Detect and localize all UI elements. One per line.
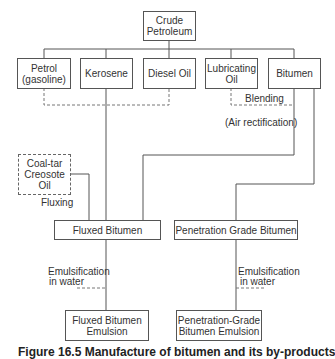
figure-caption: Figure 16.5 Manufacture of bitumen and i… xyxy=(18,345,335,359)
label-air-rectification: (Air rectification) xyxy=(225,117,297,128)
node-kerosene: Kerosene xyxy=(80,58,133,89)
label-fluxing: Fluxing xyxy=(41,197,73,208)
node-penetration-grade-bitumen: Penetration Grade Bitumen xyxy=(174,220,298,240)
node-fluxed-bitumen-emulsion: Fluxed Bitumen Emulsion xyxy=(65,310,149,341)
node-crude-petroleum: Crude Petroleum xyxy=(143,11,196,41)
node-coal-tar-creosote-oil: Coal-tar Creosote Oil xyxy=(18,154,71,195)
node-fluxed-bitumen: Fluxed Bitumen xyxy=(54,220,161,240)
label-emulsification-left-2: in water xyxy=(49,276,84,287)
node-lubricating-oil: Lubricating Oil xyxy=(205,58,258,89)
label-emulsification-right-2: in water xyxy=(240,276,275,287)
node-diesel-oil: Diesel Oil xyxy=(143,58,196,89)
node-penetration-grade-bitumen-emulsion: Penetration-Grade Bitumen Emulsion xyxy=(176,310,262,341)
label-blending: Blending xyxy=(245,93,284,104)
node-petrol: Petrol (gasoline) xyxy=(17,58,71,89)
node-bitumen: Bitumen xyxy=(268,58,321,89)
